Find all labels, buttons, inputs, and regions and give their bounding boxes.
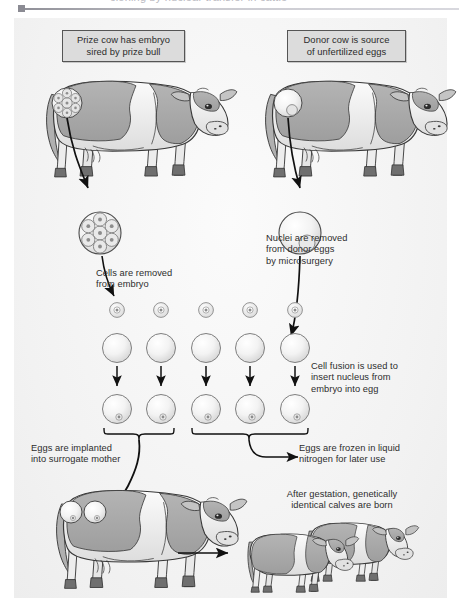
annotation-after-gestation: After gestation, genetically identical c… (268, 489, 416, 512)
annotation-eggs-implanted: Eggs are implanted into surrogate mother (31, 443, 120, 466)
caption-donor-cow: Donor cow is source of unfertilized eggs (287, 30, 406, 62)
annotation-cell-fusion: Cell fusion is used to insert nucleus fr… (311, 361, 398, 395)
clipped-header-text: cloning by nuclear transfer in cattle (110, 0, 410, 3)
annotation-cells-removed: Cells are removed from embryo (96, 268, 172, 291)
annotation-eggs-frozen: Eggs are frozen in liquid nitrogen for l… (299, 443, 400, 466)
caption-prize-cow: Prize cow has embryo sired by prize bull (62, 30, 185, 62)
header-rule-cap (18, 5, 25, 12)
figure-page: cloning by nuclear transfer in cattle (0, 0, 459, 610)
annotation-nuclei-removed: Nuclei are removed from donor eggs by mi… (266, 233, 348, 267)
header-rule (18, 8, 459, 10)
